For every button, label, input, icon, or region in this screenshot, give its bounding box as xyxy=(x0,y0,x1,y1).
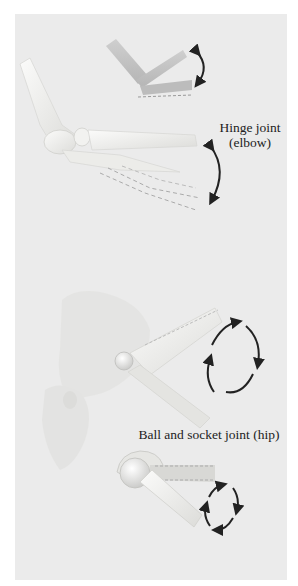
ball-arrow-top-icon xyxy=(209,485,222,497)
elbow-bones xyxy=(20,58,200,210)
joint-illustration xyxy=(0,0,298,586)
lowered-forearm-dashed-lower xyxy=(100,173,196,210)
hinge-joint-label-line1: Hinge joint xyxy=(210,120,290,135)
hinge-joint-label: Hinge joint (elbow) xyxy=(210,120,290,150)
radial-head xyxy=(74,128,90,146)
femoral-head xyxy=(115,352,133,370)
rotation-arrow-left-icon xyxy=(208,359,214,392)
ball-socket-rotation-arrows-icon xyxy=(205,485,238,530)
hinge-model xyxy=(106,39,192,97)
pelvis-bones xyxy=(42,291,150,470)
ball-socket-joint-label: Ball and socket joint (hip) xyxy=(129,427,289,442)
pelvis-ilium xyxy=(59,291,150,400)
ball-socket-model xyxy=(117,451,215,527)
hinge-model-arrow-icon xyxy=(197,52,204,83)
forearm-ulna xyxy=(62,150,180,172)
elbow-flexion-arrow-icon xyxy=(211,147,220,200)
rotation-arrow-bottom-icon xyxy=(226,374,253,392)
ball-arrow-bottom-icon xyxy=(217,518,233,530)
ball-arrow-left-icon xyxy=(205,506,210,526)
hinge-model-dashed-edge xyxy=(138,95,192,97)
hinge-joint-label-line2: (elbow) xyxy=(210,135,290,150)
forearm-radius xyxy=(88,130,197,150)
obturator-foramen xyxy=(63,391,77,409)
femur-lowered xyxy=(128,365,210,428)
hip-rotation-arrows-icon xyxy=(208,322,259,392)
rotation-arrow-right-icon xyxy=(246,326,259,364)
ball-arrow-right-icon xyxy=(233,488,238,510)
